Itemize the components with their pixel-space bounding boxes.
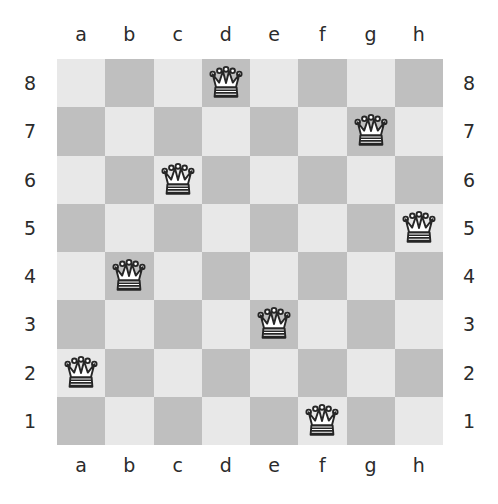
square-d6[interactable] bbox=[202, 156, 250, 204]
file-label-e: e bbox=[250, 452, 298, 478]
rank-labels-left: 87654321 bbox=[16, 59, 44, 445]
square-c8[interactable] bbox=[154, 59, 202, 107]
file-label-b: b bbox=[105, 452, 153, 478]
square-a2[interactable] bbox=[57, 349, 105, 397]
rank-label-2: 2 bbox=[455, 349, 483, 397]
square-a6[interactable] bbox=[57, 156, 105, 204]
square-g4[interactable] bbox=[347, 252, 395, 300]
rank-label-6: 6 bbox=[16, 156, 44, 204]
white-queen-icon[interactable] bbox=[400, 209, 438, 247]
file-label-h: h bbox=[395, 21, 443, 47]
white-queen-icon[interactable] bbox=[110, 257, 148, 295]
square-a7[interactable] bbox=[57, 107, 105, 155]
white-queen-icon[interactable] bbox=[207, 64, 245, 102]
square-b1[interactable] bbox=[105, 397, 153, 445]
square-b4[interactable] bbox=[105, 252, 153, 300]
square-f5[interactable] bbox=[298, 204, 346, 252]
rank-label-5: 5 bbox=[16, 204, 44, 252]
square-c1[interactable] bbox=[154, 397, 202, 445]
chess-board[interactable] bbox=[57, 59, 443, 445]
white-queen-icon[interactable] bbox=[62, 354, 100, 392]
square-f8[interactable] bbox=[298, 59, 346, 107]
square-g2[interactable] bbox=[347, 349, 395, 397]
file-label-d: d bbox=[202, 21, 250, 47]
square-h7[interactable] bbox=[395, 107, 443, 155]
file-labels-bottom: abcdefgh bbox=[57, 452, 443, 478]
square-a4[interactable] bbox=[57, 252, 105, 300]
square-c2[interactable] bbox=[154, 349, 202, 397]
rank-label-4: 4 bbox=[455, 252, 483, 300]
file-label-b: b bbox=[105, 21, 153, 47]
square-f2[interactable] bbox=[298, 349, 346, 397]
square-c4[interactable] bbox=[154, 252, 202, 300]
rank-label-2: 2 bbox=[16, 349, 44, 397]
square-b3[interactable] bbox=[105, 300, 153, 348]
square-g5[interactable] bbox=[347, 204, 395, 252]
square-b6[interactable] bbox=[105, 156, 153, 204]
square-e6[interactable] bbox=[250, 156, 298, 204]
square-a3[interactable] bbox=[57, 300, 105, 348]
square-g1[interactable] bbox=[347, 397, 395, 445]
file-label-h: h bbox=[395, 452, 443, 478]
square-d7[interactable] bbox=[202, 107, 250, 155]
square-c6[interactable] bbox=[154, 156, 202, 204]
file-label-e: e bbox=[250, 21, 298, 47]
square-b2[interactable] bbox=[105, 349, 153, 397]
square-h3[interactable] bbox=[395, 300, 443, 348]
square-d8[interactable] bbox=[202, 59, 250, 107]
square-a1[interactable] bbox=[57, 397, 105, 445]
square-a5[interactable] bbox=[57, 204, 105, 252]
square-c5[interactable] bbox=[154, 204, 202, 252]
square-a8[interactable] bbox=[57, 59, 105, 107]
file-label-f: f bbox=[298, 21, 346, 47]
file-label-c: c bbox=[154, 21, 202, 47]
square-h4[interactable] bbox=[395, 252, 443, 300]
square-e4[interactable] bbox=[250, 252, 298, 300]
square-e5[interactable] bbox=[250, 204, 298, 252]
file-label-g: g bbox=[347, 21, 395, 47]
square-h6[interactable] bbox=[395, 156, 443, 204]
square-h1[interactable] bbox=[395, 397, 443, 445]
white-queen-icon[interactable] bbox=[352, 112, 390, 150]
square-f1[interactable] bbox=[298, 397, 346, 445]
square-d2[interactable] bbox=[202, 349, 250, 397]
rank-label-7: 7 bbox=[455, 107, 483, 155]
square-g3[interactable] bbox=[347, 300, 395, 348]
square-e8[interactable] bbox=[250, 59, 298, 107]
rank-label-5: 5 bbox=[455, 204, 483, 252]
square-g8[interactable] bbox=[347, 59, 395, 107]
square-e1[interactable] bbox=[250, 397, 298, 445]
square-d4[interactable] bbox=[202, 252, 250, 300]
rank-label-6: 6 bbox=[455, 156, 483, 204]
rank-label-7: 7 bbox=[16, 107, 44, 155]
square-h8[interactable] bbox=[395, 59, 443, 107]
file-label-d: d bbox=[202, 452, 250, 478]
square-h2[interactable] bbox=[395, 349, 443, 397]
square-c3[interactable] bbox=[154, 300, 202, 348]
square-g6[interactable] bbox=[347, 156, 395, 204]
square-b8[interactable] bbox=[105, 59, 153, 107]
square-d3[interactable] bbox=[202, 300, 250, 348]
square-e7[interactable] bbox=[250, 107, 298, 155]
square-f7[interactable] bbox=[298, 107, 346, 155]
square-f4[interactable] bbox=[298, 252, 346, 300]
square-d1[interactable] bbox=[202, 397, 250, 445]
square-e2[interactable] bbox=[250, 349, 298, 397]
square-e3[interactable] bbox=[250, 300, 298, 348]
square-f6[interactable] bbox=[298, 156, 346, 204]
square-d5[interactable] bbox=[202, 204, 250, 252]
white-queen-icon[interactable] bbox=[255, 305, 293, 343]
square-g7[interactable] bbox=[347, 107, 395, 155]
white-queen-icon[interactable] bbox=[159, 161, 197, 199]
square-f3[interactable] bbox=[298, 300, 346, 348]
white-queen-icon[interactable] bbox=[303, 402, 341, 440]
square-h5[interactable] bbox=[395, 204, 443, 252]
rank-label-8: 8 bbox=[455, 59, 483, 107]
square-b5[interactable] bbox=[105, 204, 153, 252]
square-c7[interactable] bbox=[154, 107, 202, 155]
chessboard-figure: abcdefgh 87654321 bbox=[0, 0, 498, 504]
square-b7[interactable] bbox=[105, 107, 153, 155]
rank-labels-right: 87654321 bbox=[455, 59, 483, 445]
file-label-c: c bbox=[154, 452, 202, 478]
file-label-f: f bbox=[298, 452, 346, 478]
